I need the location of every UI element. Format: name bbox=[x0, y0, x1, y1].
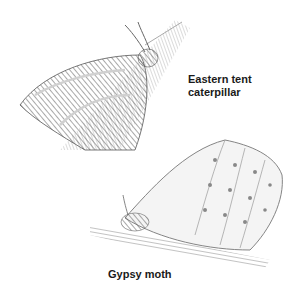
illustration-canvas: Eastern tent caterpillar Gypsy moth bbox=[0, 0, 301, 293]
eastern-tent-moth bbox=[20, 22, 158, 150]
gypsy-moth-label: Gypsy moth bbox=[108, 268, 172, 281]
eastern-tent-caterpillar-label: Eastern tent caterpillar bbox=[188, 73, 252, 99]
gypsy-moth bbox=[121, 140, 282, 250]
label-line-1: Eastern tent bbox=[188, 73, 252, 86]
label-line-2: caterpillar bbox=[188, 86, 252, 99]
moth-illustration bbox=[0, 0, 301, 293]
